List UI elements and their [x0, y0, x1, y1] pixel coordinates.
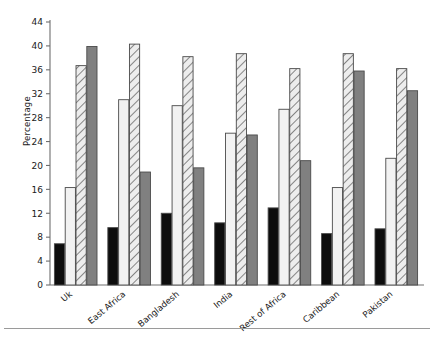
bar: [375, 229, 385, 285]
bar: [386, 158, 396, 285]
x-category-label: East Africa: [86, 289, 128, 326]
bar: [54, 244, 64, 285]
bar: [322, 234, 332, 285]
y-tick-label: 0: [37, 280, 43, 290]
bar: [65, 188, 75, 285]
bar: [161, 213, 171, 285]
bar: [279, 109, 289, 285]
chart-canvas: 048121620242832364044 UkEast AfricaBangl…: [0, 0, 434, 340]
x-category-label: Pakistan: [361, 289, 395, 320]
y-tick-label: 16: [32, 185, 44, 195]
bar: [301, 161, 311, 285]
y-tick-label: 44: [32, 17, 44, 27]
bar: [194, 168, 204, 285]
bar: [332, 188, 342, 285]
bar-chart: Percentage 048121620242832364044 UkEast …: [0, 0, 434, 340]
bar: [119, 100, 129, 285]
bar: [76, 66, 86, 285]
y-tick-label: 36: [32, 65, 44, 75]
bar: [172, 106, 182, 285]
bar: [397, 69, 407, 285]
y-tick-label: 12: [32, 209, 43, 219]
y-tick-label: 40: [32, 41, 44, 51]
bar: [140, 172, 150, 285]
bar: [183, 57, 193, 285]
x-category-label: Uk: [59, 289, 74, 304]
y-tick-label: 20: [32, 161, 44, 171]
bar: [343, 54, 353, 285]
y-tick-label: 8: [37, 232, 43, 242]
bars-group: [54, 44, 417, 285]
y-tick-label: 32: [32, 89, 43, 99]
x-category-label: Caribbean: [301, 289, 341, 325]
bar: [247, 135, 257, 285]
y-tick-label: 28: [32, 113, 44, 123]
y-tick-label: 4: [37, 256, 43, 266]
x-category-label: India: [212, 289, 235, 310]
x-category-label: Rest of Africa: [238, 289, 288, 333]
bar: [215, 223, 225, 285]
bar: [108, 228, 118, 285]
bar: [354, 71, 364, 285]
footer-divider: [4, 328, 430, 329]
bar: [129, 44, 139, 285]
x-category-label: Bangladesh: [136, 289, 181, 329]
bar: [407, 91, 417, 285]
bar: [236, 54, 246, 285]
bar: [268, 208, 278, 285]
bar: [290, 69, 300, 285]
x-axis-labels: UkEast AfricaBangladeshIndiaRest of Afri…: [59, 289, 395, 333]
bar: [87, 47, 97, 285]
y-tick-label: 24: [32, 137, 44, 147]
y-axis-label: Percentage: [22, 76, 32, 166]
bar: [226, 133, 236, 285]
